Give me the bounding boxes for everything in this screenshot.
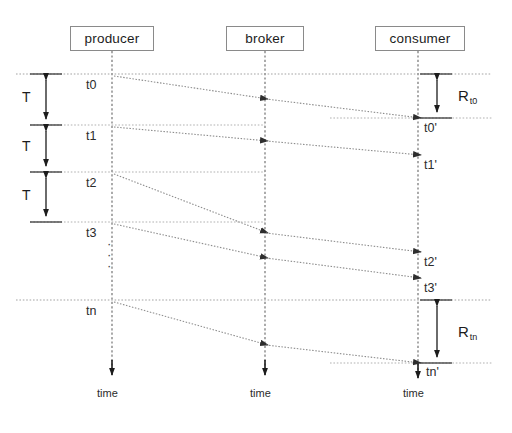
event-label-t0-prime: t0' — [424, 122, 437, 135]
event-label-t1-prime: t1' — [424, 159, 437, 172]
time-axis-label-consumer: time — [403, 388, 424, 399]
latency-bracket-Rtn — [420, 300, 452, 363]
message-t1 — [114, 127, 421, 155]
actor-label-producer: producer — [85, 31, 140, 46]
time-axis-label-broker: time — [250, 388, 271, 399]
event-label-t1: t1 — [86, 130, 96, 143]
latency-label-Rtn-subscript: tn — [470, 332, 478, 342]
event-label-tn-prime: tn' — [426, 366, 439, 379]
actor-box-consumer[interactable]: consumer — [375, 26, 465, 51]
message-t3 — [114, 224, 421, 278]
sequence-diagram: producer broker consumer t0 t1 t2 t3 tn … — [0, 0, 512, 433]
time-axis-label-producer: time — [97, 388, 118, 399]
event-label-t3: t3 — [86, 227, 96, 240]
message-tn — [114, 302, 421, 363]
event-label-t2: t2 — [86, 177, 96, 190]
event-label-tn: tn — [86, 305, 96, 318]
interval-label-T-3: T — [22, 188, 31, 202]
latency-label-Rt0-base: R — [458, 87, 469, 104]
event-label-t3-prime: t3' — [424, 282, 437, 295]
actor-box-producer[interactable]: producer — [70, 26, 154, 51]
message-t2 — [114, 174, 421, 252]
actor-box-broker[interactable]: broker — [226, 26, 304, 51]
event-label-t0: t0 — [86, 79, 96, 92]
interval-bracket-T — [30, 74, 62, 222]
latency-label-Rtn-base: R — [458, 323, 469, 340]
latency-label-Rtn: Rtn — [458, 324, 476, 339]
latency-bracket-Rt0 — [420, 74, 452, 118]
actor-label-broker: broker — [245, 31, 284, 46]
actor-label-consumer: consumer — [390, 31, 451, 46]
interval-label-T-2: T — [22, 139, 31, 153]
ellipsis-marker: ··· — [107, 238, 111, 271]
event-label-t2-prime: t2' — [424, 256, 437, 269]
message-t0 — [114, 76, 421, 118]
interval-label-T-1: T — [22, 90, 31, 104]
latency-label-Rt0: Rt0 — [458, 88, 476, 103]
latency-label-Rt0-subscript: t0 — [470, 96, 478, 106]
